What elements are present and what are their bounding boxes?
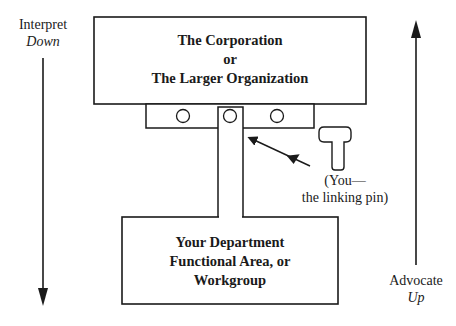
rail-hole-center	[224, 110, 237, 123]
corporation-box-label: The Corporation or The Larger Organizati…	[94, 31, 366, 88]
you-text: (You—	[285, 172, 405, 189]
department-line-2: Functional Area, or	[122, 252, 338, 271]
interpret-down-arrowhead	[38, 288, 48, 306]
advocate-up-label: Advocate Up	[378, 272, 454, 306]
linking-pin-text: the linking pin)	[285, 189, 405, 206]
up-text: Up	[378, 289, 454, 306]
down-text: Down	[5, 33, 81, 50]
advocate-up-arrowhead	[411, 20, 421, 38]
corporation-line-1: The Corporation	[94, 31, 366, 50]
advocate-text: Advocate	[378, 272, 454, 289]
rail-hole-right	[271, 110, 284, 123]
department-line-1: Your Department	[122, 233, 338, 252]
pin-pointer-arrow	[252, 139, 310, 166]
corporation-line-3: The Larger Organization	[94, 69, 366, 88]
rail-hole-left	[177, 110, 190, 123]
linking-pin-label: (You— the linking pin)	[285, 172, 405, 206]
department-box-label: Your Department Functional Area, or Work…	[122, 233, 338, 290]
department-stem	[218, 107, 243, 218]
interpret-text: Interpret	[5, 16, 81, 33]
department-line-3: Workgroup	[122, 271, 338, 290]
corporation-line-2: or	[94, 50, 366, 69]
pin-pointer-arrowhead-mid	[287, 154, 301, 164]
linking-pin-icon	[319, 127, 351, 170]
interpret-down-label: Interpret Down	[5, 16, 81, 50]
